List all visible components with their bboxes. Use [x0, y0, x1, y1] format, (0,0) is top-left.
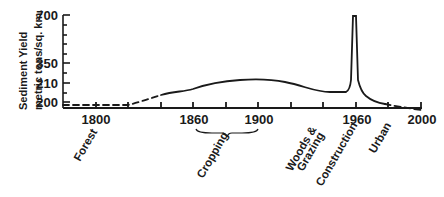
x-tick-1900: 1900 [245, 112, 274, 127]
annotation-construction: Construction [313, 120, 359, 188]
y-axis-label-line1: Sediment Yield [17, 32, 29, 110]
x-tick-1860: 1860 [180, 112, 209, 127]
era-annotations: Forest Cropping Woods & Grazing Construc… [71, 120, 393, 188]
line-segment-dashed-late [385, 104, 421, 110]
y-tick-200: 200 [36, 95, 58, 110]
line-segment-solid [161, 16, 385, 104]
x-tick-2000: 2000 [408, 112, 437, 127]
y-axis [63, 15, 70, 108]
annotation-cropping: Cropping [194, 130, 230, 180]
sediment-yield-chart: Sediment Yield metric tons/sq. km. 700 3… [0, 0, 444, 197]
y-tick-210: 210 [36, 76, 58, 91]
line-segment-dashed-early [63, 95, 161, 105]
y-tick-700: 700 [36, 8, 58, 23]
x-tick-1800: 1800 [82, 112, 111, 127]
data-line [63, 16, 421, 110]
y-tick-350: 350 [36, 56, 58, 71]
annotation-forest: Forest [71, 126, 99, 163]
